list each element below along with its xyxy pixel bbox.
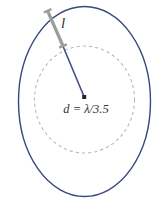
center-dot [82,95,86,99]
feed-line [63,46,84,97]
diameter-label: d = λ/3.5 [63,102,108,116]
dashed-inner-circle [35,46,135,153]
element-bar-cap-top [44,9,52,12]
element-length-label: l [61,15,65,31]
antenna-diagram: l d = λ/3.5 [0,0,165,209]
element-bar-cap-bottom [59,44,67,47]
diagram-canvas: l d = λ/3.5 [0,0,165,209]
